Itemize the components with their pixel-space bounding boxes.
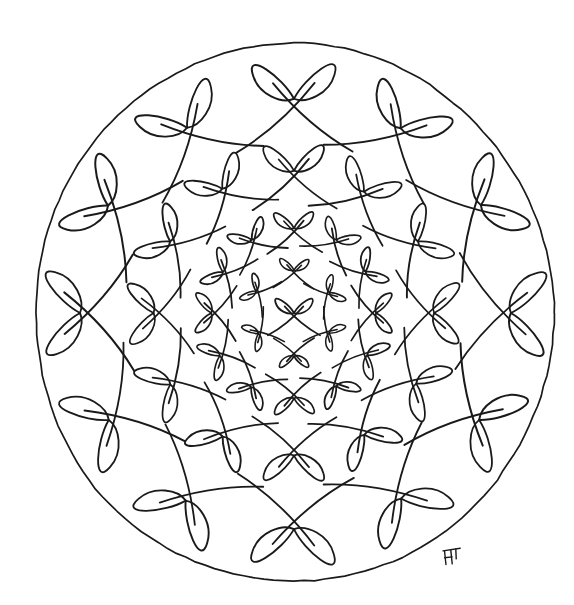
monogram-stroke [445,557,452,558]
mandala-artboard: AT [0,0,574,605]
mandala-drawing: AT [0,0,574,605]
